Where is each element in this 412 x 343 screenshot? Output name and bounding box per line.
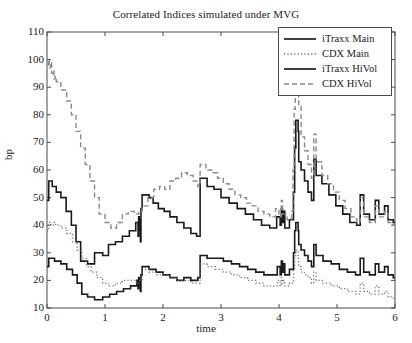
legend-label: iTraxx HiVol [322,63,377,74]
figure: Correlated Indices simulated under MVG b… [0,0,412,343]
legend-label: CDX Main [322,48,369,59]
legend-swatch [283,64,317,74]
legend-label: iTraxx Main [322,33,374,44]
legend-item-itraxx-main[interactable]: iTraxx Main [283,31,387,46]
legend-label: CDX HiVol [322,78,372,89]
legend-item-cdx-main[interactable]: CDX Main [283,46,387,61]
legend-item-cdx-hivol[interactable]: CDX HiVol [283,76,387,91]
x-axis-label: time [0,322,412,334]
series-line-cdx-main [47,222,395,299]
legend-swatch [283,79,317,89]
legend-item-itraxx-hivol[interactable]: iTraxx HiVol [283,61,387,76]
chart-legend: iTraxx MainCDX MainiTraxx HiVolCDX HiVol [278,27,392,96]
series-line-itraxx-hivol [47,120,395,264]
legend-swatch [283,34,317,44]
legend-swatch [283,49,317,59]
series-line-itraxx-main [47,222,395,299]
